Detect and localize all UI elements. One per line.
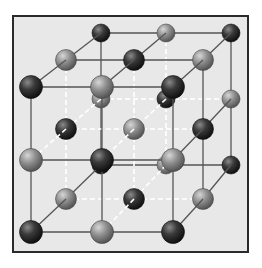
dark-atom [162,221,185,244]
lattice-diagram [0,0,262,268]
light-atom [91,221,114,244]
light-atom [20,149,43,172]
light-atom [162,149,185,172]
dark-atom [20,76,43,99]
lattice-svg [0,0,262,268]
dark-atom [91,149,114,172]
dark-atom [20,221,43,244]
light-atom [91,76,114,99]
dark-atom [162,76,185,99]
